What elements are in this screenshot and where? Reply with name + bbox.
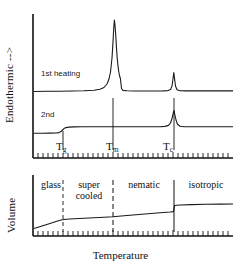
temperature-axis-label: Temperature — [0, 249, 241, 261]
tm-subscript: m — [113, 145, 119, 154]
phase-label-nematic: nematic — [118, 180, 170, 191]
transition-label-tc: Tc — [163, 140, 173, 154]
phase-label-super-cooled: super cooled — [68, 180, 110, 201]
bottom-panel-x-ticks — [38, 230, 228, 236]
transition-label-tm: Tm — [106, 140, 119, 154]
figure-canvas — [0, 0, 241, 268]
curve-1st-heating — [34, 20, 233, 92]
tg-symbol: T — [56, 140, 63, 152]
phase-label-glass: glass — [36, 180, 66, 191]
endothermic-axis-label: Endothermic --> — [3, 20, 15, 150]
tc-subscript: c — [170, 145, 173, 154]
dsc-volume-temperature-figure: Endothermic --> Volume Temperature 1st h… — [0, 0, 241, 268]
curve-label-2nd: 2nd — [41, 110, 54, 119]
tg-subscript: g — [63, 145, 67, 154]
curve-2nd — [34, 111, 233, 134]
curve-label-1st-heating: 1st heating — [41, 69, 80, 78]
transition-label-tg: Tg — [56, 140, 66, 154]
curve-volume — [34, 204, 233, 229]
tm-symbol: T — [106, 140, 113, 152]
volume-axis-label: Volume — [5, 186, 17, 244]
phase-label-isotropic: isotropic — [178, 180, 234, 191]
tc-symbol: T — [163, 140, 170, 152]
top-panel-x-ticks — [38, 152, 228, 158]
